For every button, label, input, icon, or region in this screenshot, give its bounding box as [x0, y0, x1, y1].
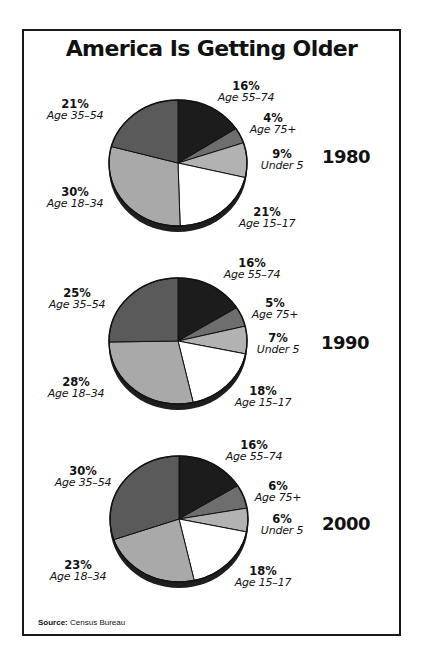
label-group: Age 15–17	[239, 218, 295, 230]
label-1980-age-35-54: 21% Age 35–54	[47, 98, 103, 122]
label-group: Age 55–74	[224, 269, 280, 281]
pie-1990	[109, 278, 247, 410]
label-2000-age-55-74: 16% Age 55–74	[226, 439, 282, 463]
source-label: Source:	[38, 618, 68, 627]
label-1990-age-18-34: 28% Age 18–34	[48, 376, 104, 400]
label-group: Age 75+	[255, 492, 302, 504]
pie-1980	[109, 100, 247, 232]
label-1980-age-75-plus: 4% Age 75+	[250, 112, 297, 136]
label-group: Age 18–34	[47, 198, 103, 210]
year-label-2000: 2000	[322, 513, 370, 534]
pie-slice-age-18-34	[109, 341, 193, 404]
label-1980-under-5: 9% Under 5	[261, 148, 303, 172]
year-label-1980: 1980	[322, 146, 370, 167]
label-group: Age 55–74	[218, 92, 274, 104]
label-group: Under 5	[261, 160, 303, 172]
label-2000-age-35-54: 30% Age 35–54	[55, 465, 111, 489]
label-1990-age-15-17: 18% Age 15–17	[235, 385, 291, 409]
label-group: Age 15–17	[235, 397, 291, 409]
label-group: Age 75+	[250, 124, 297, 136]
label-group: Age 55–74	[226, 451, 282, 463]
pie-slice-age-35-54	[109, 278, 178, 342]
source-text: Census Bureau	[70, 618, 125, 627]
label-2000-age-15-17: 18% Age 15–17	[235, 565, 291, 589]
label-2000-age-18-34: 23% Age 18–34	[50, 559, 106, 583]
pie-2000	[110, 456, 248, 588]
label-group: Age 35–54	[47, 110, 103, 122]
label-1990-age-75-plus: 5% Age 75+	[252, 297, 299, 321]
label-1990-age-35-54: 25% Age 35–54	[49, 287, 105, 311]
label-1980-age-55-74: 16% Age 55–74	[218, 80, 274, 104]
label-2000-under-5: 6% Under 5	[261, 513, 303, 537]
label-1980-age-15-17: 21% Age 15–17	[239, 206, 295, 230]
label-group: Age 75+	[252, 309, 299, 321]
source-note: Source: Census Bureau	[38, 618, 125, 627]
label-group: Age 35–54	[55, 477, 111, 489]
label-group: Age 18–34	[48, 388, 104, 400]
year-label-1990: 1990	[321, 332, 369, 353]
label-1990-age-55-74: 16% Age 55–74	[224, 257, 280, 281]
label-1990-under-5: 7% Under 5	[257, 332, 299, 356]
label-group: Age 35–54	[49, 299, 105, 311]
label-group: Age 15–17	[235, 577, 291, 589]
label-group: Under 5	[257, 344, 299, 356]
label-2000-age-75-plus: 6% Age 75+	[255, 480, 302, 504]
label-group: Age 18–34	[50, 571, 106, 583]
label-1980-age-18-34: 30% Age 18–34	[47, 186, 103, 210]
label-group: Under 5	[261, 525, 303, 537]
